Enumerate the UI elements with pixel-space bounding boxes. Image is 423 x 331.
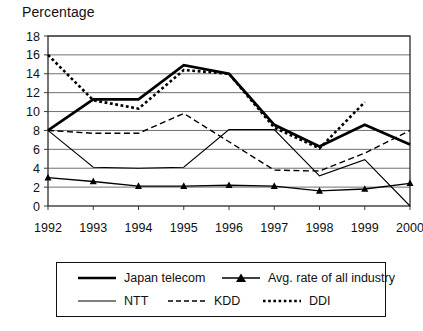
legend-label-avg-rate: Avg. rate of all industry <box>268 271 395 285</box>
series-markers <box>45 174 414 194</box>
plot-frame <box>48 36 410 206</box>
series-marker-triangle <box>45 174 52 181</box>
svg-text:18: 18 <box>26 30 40 44</box>
svg-text:1993: 1993 <box>79 221 107 235</box>
svg-text:1994: 1994 <box>125 221 153 235</box>
legend-swatch-dotted <box>262 295 302 307</box>
svg-text:2: 2 <box>33 181 40 195</box>
legend-label-japan-telecom: Japan telecom <box>124 271 205 285</box>
legend-swatch-triangle-marker <box>221 272 261 284</box>
legend-item-kdd: KDD <box>167 294 240 308</box>
series-line-japan-telecom <box>48 65 410 146</box>
svg-text:0: 0 <box>33 200 40 214</box>
svg-text:10: 10 <box>26 105 40 119</box>
legend-swatch-dashed <box>167 295 207 307</box>
legend-item-japan-telecom: Japan telecom <box>77 271 205 285</box>
legend-swatch-thick-solid <box>77 272 117 284</box>
svg-text:4: 4 <box>33 162 40 176</box>
x-axis-labels: 199219931994199519961997199819992000 <box>34 221 423 235</box>
legend-swatch-thin-solid <box>77 295 117 307</box>
legend-label-kdd: KDD <box>214 294 240 308</box>
svg-text:6: 6 <box>33 143 40 157</box>
svg-text:1998: 1998 <box>306 221 334 235</box>
series-marker-triangle <box>407 179 414 186</box>
grid-lines <box>44 36 410 206</box>
legend-label-ddi: DDI <box>309 294 331 308</box>
chart-legend: Japan telecom Avg. rate of all industry … <box>56 262 386 317</box>
svg-text:1995: 1995 <box>170 221 198 235</box>
svg-text:16: 16 <box>26 48 40 62</box>
svg-text:1997: 1997 <box>260 221 288 235</box>
svg-text:2000: 2000 <box>396 221 423 235</box>
legend-label-ntt: NTT <box>124 294 148 308</box>
y-axis-labels: 024681012141618 <box>26 30 40 214</box>
chart-root: Percentage 024681012141618 1992199319941… <box>0 0 423 331</box>
svg-text:14: 14 <box>26 67 40 81</box>
legend-item-ntt: NTT <box>77 294 148 308</box>
svg-text:12: 12 <box>26 86 40 100</box>
chart-svg: 024681012141618 199219931994199519961997… <box>0 0 423 260</box>
plot-area: 024681012141618 199219931994199519961997… <box>0 0 423 260</box>
legend-item-avg-rate: Avg. rate of all industry <box>221 271 395 285</box>
svg-text:1999: 1999 <box>351 221 379 235</box>
legend-item-ddi: DDI <box>262 294 331 308</box>
svg-text:1992: 1992 <box>34 221 62 235</box>
svg-text:8: 8 <box>33 124 40 138</box>
svg-text:1996: 1996 <box>215 221 243 235</box>
